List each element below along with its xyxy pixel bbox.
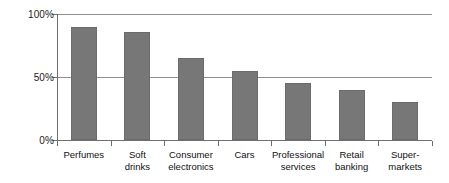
x-axis-line [57,140,432,141]
x-tick-mark [432,141,433,146]
bar-chart-screenshot: 100% 50% 0% PerfumesSoft drinksConsumer … [0,0,449,183]
chart-plot-area: 100% 50% 0% PerfumesSoft drinksConsumer … [0,0,449,183]
bar [178,58,204,140]
x-tick-mark [378,141,379,146]
x-tick-mark [111,141,112,146]
x-axis-category-label: Cars [218,149,272,161]
x-axis-category-label: Consumer electronics [164,149,218,172]
bar [339,90,365,140]
x-axis-category-label: Retail banking [325,149,379,172]
bar [124,32,150,140]
x-axis-category-label: Professional services [271,149,325,172]
y-tick-label-0: 0% [10,135,54,146]
x-tick-mark [57,141,58,146]
bar [392,102,418,140]
bar [285,83,311,140]
x-axis-category-label: Perfumes [57,149,111,161]
x-tick-mark [325,141,326,146]
x-axis-category-label: Super- markets [378,149,432,172]
x-tick-mark [218,141,219,146]
gridline-100 [57,14,432,15]
bar [232,71,258,140]
y-tick-label-100: 100% [10,9,54,20]
x-axis-category-label: Soft drinks [111,149,165,172]
x-tick-mark [164,141,165,146]
x-tick-mark [271,141,272,146]
y-tick-label-50: 50% [10,72,54,83]
bar [71,27,97,140]
